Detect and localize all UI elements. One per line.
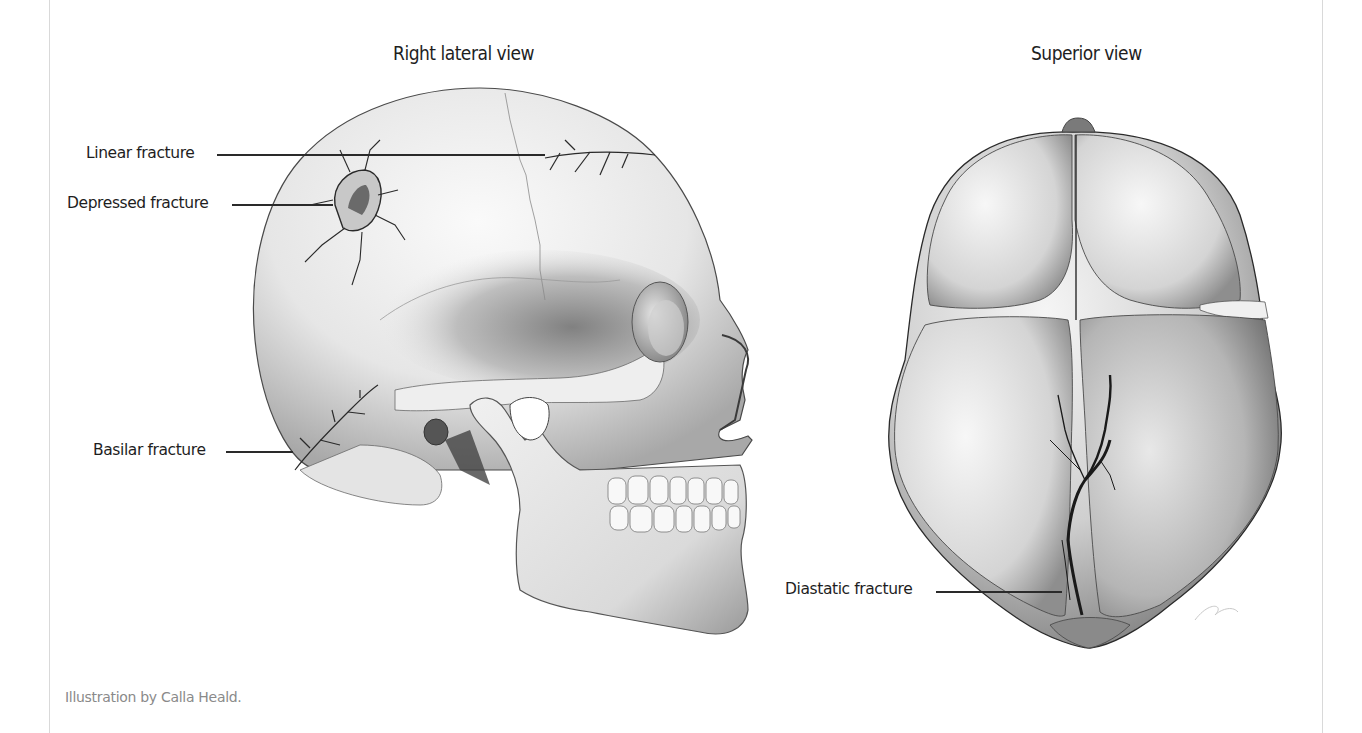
- lateral-view-title: Right lateral view: [393, 42, 534, 64]
- lateral-skull-drawing: [217, 88, 752, 634]
- illustration-credit: Illustration by Calla Heald.: [65, 689, 242, 705]
- ear-canal: [424, 419, 448, 445]
- nasion-bump: [1062, 118, 1095, 132]
- parietal-plate-left: [895, 317, 1073, 616]
- superior-view-title: Superior view: [1031, 42, 1142, 64]
- label-diastatic-fracture: Diastatic fracture: [785, 580, 912, 598]
- occipital-bone: [1050, 618, 1130, 649]
- illustration-canvas: [0, 0, 1362, 733]
- frontal-plate-left: [927, 135, 1072, 308]
- label-depressed-fracture: Depressed fracture: [67, 194, 208, 212]
- label-basilar-fracture: Basilar fracture: [93, 441, 206, 459]
- label-linear-fracture: Linear fracture: [86, 144, 194, 162]
- parietal-plate-right: [1080, 315, 1278, 617]
- artist-signature: [1195, 606, 1238, 620]
- superior-skull-drawing: [889, 118, 1282, 648]
